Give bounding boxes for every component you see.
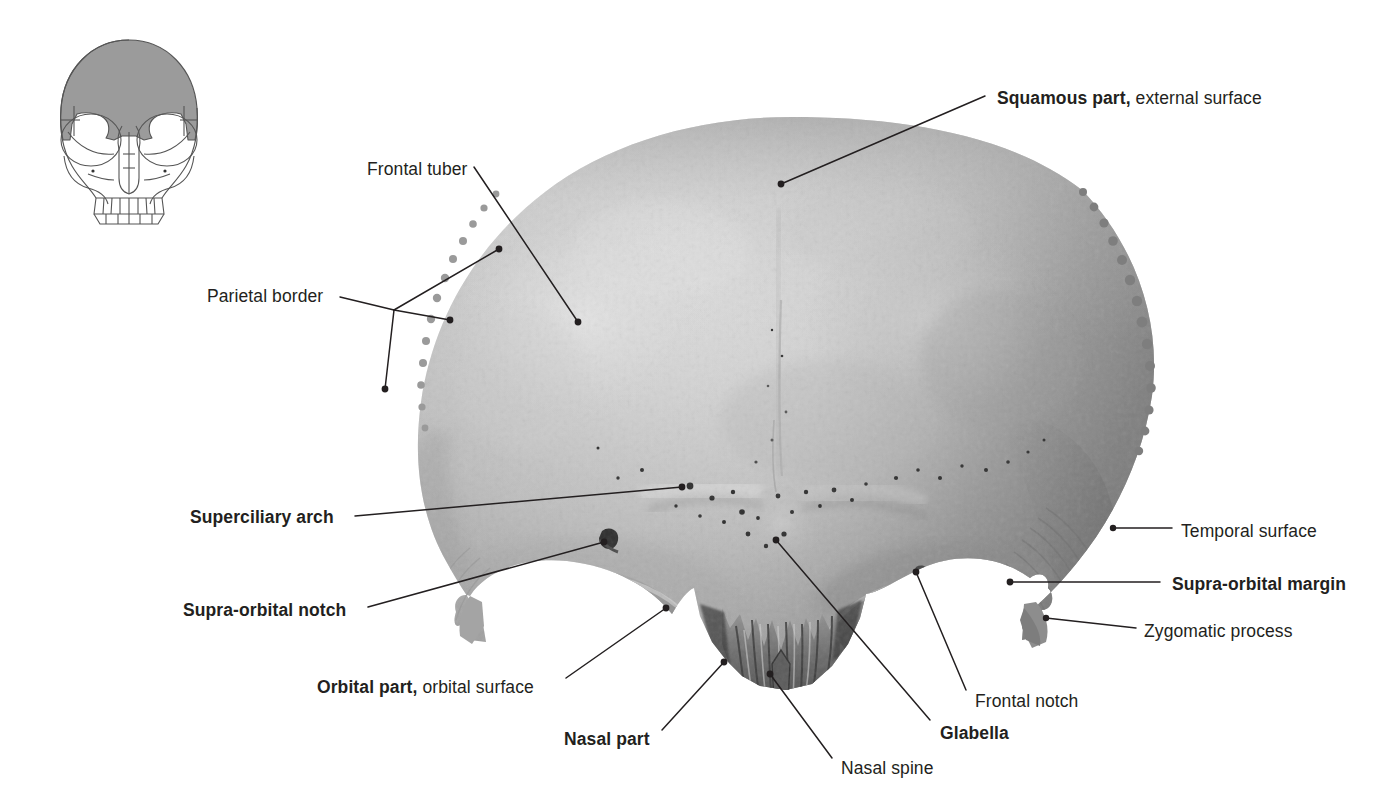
label-orbital-part-plain: orbital surface bbox=[417, 677, 533, 697]
temporal-striations-right bbox=[1006, 508, 1096, 618]
frontal-tuber-right bbox=[804, 218, 1056, 418]
label-superciliary-arch: Superciliary arch bbox=[190, 507, 334, 528]
label-glabella: Glabella bbox=[940, 723, 1009, 744]
label-nasal-part: Nasal part bbox=[564, 729, 650, 750]
supra-orbital-notch-mark bbox=[599, 529, 618, 550]
orbital-part-right-surface bbox=[832, 574, 1038, 656]
label-temporal-surface-text: Temporal surface bbox=[1181, 521, 1317, 541]
leader-squamous-part bbox=[781, 96, 985, 184]
label-zygomatic-process-text: Zygomatic process bbox=[1144, 621, 1293, 641]
superciliary-arch-right-ridge bbox=[800, 487, 926, 502]
nutrient-foramina bbox=[597, 329, 1046, 548]
leader-supra-orbital-notch bbox=[368, 542, 604, 607]
label-supra-orbital-notch-text: Supra-orbital notch bbox=[183, 600, 346, 620]
label-frontal-notch: Frontal notch bbox=[975, 691, 1078, 712]
leader-superciliary-arch bbox=[355, 487, 682, 516]
glabella-elevation bbox=[737, 486, 825, 574]
label-supra-orbital-notch: Supra-orbital notch bbox=[183, 600, 346, 621]
label-frontal-tuber-text: Frontal tuber bbox=[367, 159, 468, 179]
label-squamous-part-plain: external surface bbox=[1131, 88, 1262, 108]
label-squamous-part: Squamous part, external surface bbox=[997, 88, 1262, 109]
leader-zygomatic-process bbox=[1046, 618, 1136, 628]
leader-nasal-part bbox=[662, 662, 724, 730]
label-superciliary-arch-text: Superciliary arch bbox=[190, 507, 334, 527]
label-frontal-notch-text: Frontal notch bbox=[975, 691, 1078, 711]
orbital-part-left-surface bbox=[470, 567, 692, 650]
skull-anterior-orientation-diagram bbox=[44, 28, 214, 228]
frontal-notch-mark bbox=[915, 566, 929, 582]
label-supra-orbital-margin-text: Supra-orbital margin bbox=[1172, 574, 1346, 594]
superciliary-arch-left-ridge bbox=[640, 486, 762, 496]
label-squamous-part-bold: Squamous part, bbox=[997, 88, 1131, 108]
frontal-tuber-left bbox=[455, 216, 711, 420]
temporal-surface-right-shade bbox=[1000, 420, 1118, 600]
label-frontal-tuber: Frontal tuber bbox=[367, 159, 468, 180]
leader-nasal-spine bbox=[770, 674, 832, 758]
leader-endpoint-dots bbox=[382, 181, 1117, 678]
label-parietal-border-text: Parietal border bbox=[207, 286, 323, 306]
leader-glabella bbox=[776, 540, 930, 720]
label-nasal-part-text: Nasal part bbox=[564, 729, 650, 749]
figure-page: Squamous part, external surface Frontal … bbox=[0, 0, 1395, 807]
label-orbital-part-bold: Orbital part, bbox=[317, 677, 417, 697]
label-temporal-surface: Temporal surface bbox=[1181, 521, 1317, 542]
parietal-border-serrations bbox=[417, 188, 1156, 455]
bone-body bbox=[400, 100, 1180, 720]
nasal-spine-process bbox=[772, 650, 790, 712]
temporal-striations-left bbox=[434, 548, 490, 620]
label-nasal-spine: Nasal spine bbox=[841, 758, 934, 779]
label-glabella-text: Glabella bbox=[940, 723, 1009, 743]
zygomatic-process-right-tip bbox=[1020, 608, 1040, 646]
zygomatic-processes bbox=[459, 596, 1047, 648]
leader-parietal-border bbox=[340, 249, 499, 389]
nasal-part-region bbox=[722, 606, 840, 712]
label-nasal-spine-text: Nasal spine bbox=[841, 758, 934, 778]
label-supra-orbital-margin: Supra-orbital margin bbox=[1172, 574, 1346, 595]
leader-orbital-part bbox=[566, 608, 666, 678]
label-parietal-border: Parietal border bbox=[207, 286, 323, 307]
leader-frontal-notch bbox=[916, 572, 966, 690]
label-orbital-part: Orbital part, orbital surface bbox=[317, 677, 534, 698]
leader-frontal-tuber bbox=[474, 167, 578, 322]
frontal-bone-highlight bbox=[61, 40, 198, 140]
label-zygomatic-process: Zygomatic process bbox=[1144, 621, 1293, 642]
